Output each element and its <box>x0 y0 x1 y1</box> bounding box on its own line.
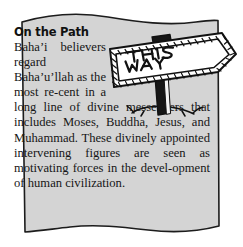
callout-content: On the Path Baha’i believers regard Baha… <box>0 0 243 247</box>
text-column: On the Path Baha’i believers regard Baha… <box>14 26 210 191</box>
callout-box: On the Path Baha’i believers regard Baha… <box>0 0 243 247</box>
art-float-spacer <box>110 12 218 98</box>
